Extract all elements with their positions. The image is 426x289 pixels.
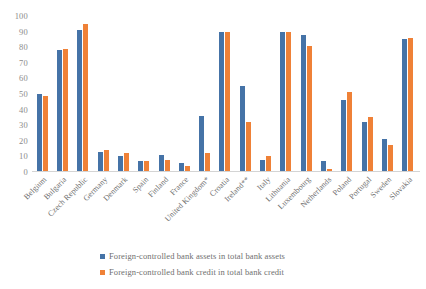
x-axis-label-cell: Poland [337, 173, 357, 243]
x-axis-label-cell: Denmark [113, 173, 133, 243]
bar-group [276, 16, 296, 172]
bar [266, 156, 271, 172]
bar [246, 122, 251, 172]
bar-group [235, 16, 255, 172]
legend-label: Foreign-controlled bank assets in total … [109, 251, 285, 261]
y-axis-tick: 60 [0, 73, 28, 83]
bar [240, 86, 245, 172]
bar-group [357, 16, 377, 172]
y-axis-tick: 100 [0, 11, 28, 21]
bar [57, 50, 62, 172]
legend-label: Foreign-controlled bank credit in total … [109, 267, 284, 277]
bar [159, 155, 164, 172]
x-axis-label-cell: Italy [255, 173, 275, 243]
bar-group [174, 16, 194, 172]
y-axis-tick: 50 [0, 89, 28, 99]
x-axis-label-cell: Germany [93, 173, 113, 243]
plot-area [32, 16, 418, 172]
x-axis-label-cell: Spain [134, 173, 154, 243]
bar-group [398, 16, 418, 172]
x-axis-labels: BelgiumBulgariaCzech RepublicGermanyDenm… [32, 173, 418, 243]
bar [382, 139, 387, 172]
x-axis-label-cell: Netherlands [316, 173, 336, 243]
bar-group [154, 16, 174, 172]
y-axis-tick: 80 [0, 42, 28, 52]
bar [368, 117, 373, 172]
bar [225, 32, 230, 172]
x-axis-label-cell: Slovakia [398, 173, 418, 243]
bar [301, 35, 306, 172]
x-axis-label: Italy [255, 175, 272, 192]
legend-item[interactable]: Foreign-controlled bank assets in total … [100, 248, 400, 264]
y-axis: 1009080706050403020100 [0, 10, 28, 178]
bar-chart: 1009080706050403020100 BelgiumBulgariaCz… [0, 0, 426, 289]
y-axis-tick: 40 [0, 105, 28, 115]
x-axis-label-cell: United Kingdom* [195, 173, 215, 243]
x-axis-line [32, 171, 420, 172]
bar-group [73, 16, 93, 172]
bar [63, 49, 68, 172]
bar [402, 39, 407, 172]
bar [77, 30, 82, 172]
bar-group [255, 16, 275, 172]
bar [341, 100, 346, 172]
bar [408, 38, 413, 172]
bar-group [32, 16, 52, 172]
legend-swatch-icon [100, 254, 105, 259]
legend-item[interactable]: Foreign-controlled bank credit in total … [100, 264, 400, 280]
bar [205, 153, 210, 172]
bar-group [195, 16, 215, 172]
bar-group [337, 16, 357, 172]
x-axis-label-cell: Sweden [377, 173, 397, 243]
bar [219, 32, 224, 172]
bar-group [316, 16, 336, 172]
bar [118, 156, 123, 172]
x-axis-label-cell: Croatia [215, 173, 235, 243]
bar-group [52, 16, 72, 172]
x-axis-label-cell: Czech Republic [73, 173, 93, 243]
bar-groups [32, 16, 418, 172]
bar [199, 116, 204, 172]
bar [307, 46, 312, 172]
bar [43, 96, 48, 172]
y-axis-tick: 0 [0, 167, 28, 177]
bar [286, 32, 291, 172]
y-axis-tick: 70 [0, 58, 28, 68]
y-axis-tick: 10 [0, 151, 28, 161]
bar [37, 94, 42, 172]
y-axis-tick: 90 [0, 27, 28, 37]
y-axis-tick: 20 [0, 136, 28, 146]
bar [98, 152, 103, 172]
bar-group [113, 16, 133, 172]
bar-group [377, 16, 397, 172]
bar [124, 153, 129, 172]
legend-swatch-icon [100, 270, 105, 275]
bar-group [134, 16, 154, 172]
bar-group [215, 16, 235, 172]
chart-legend: Foreign-controlled bank assets in total … [100, 248, 400, 280]
bar [83, 24, 88, 172]
bar [362, 122, 367, 172]
y-axis-tick: 30 [0, 120, 28, 130]
bar-group [296, 16, 316, 172]
bar [388, 145, 393, 172]
x-axis-label-cell: Ireland** [235, 173, 255, 243]
bar-group [93, 16, 113, 172]
x-axis-label-cell: Portugal [357, 173, 377, 243]
bar [280, 32, 285, 172]
bar [347, 92, 352, 172]
bar [104, 150, 109, 172]
